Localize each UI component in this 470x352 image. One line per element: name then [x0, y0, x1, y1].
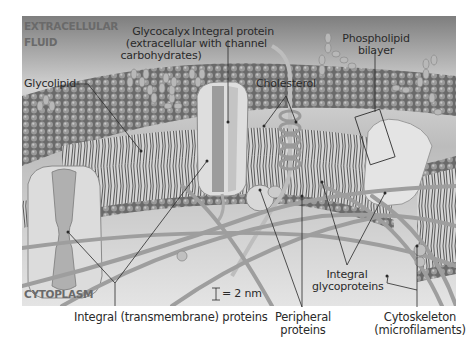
peripheral-proteins-label: Peripheral proteins [268, 311, 338, 337]
integral-protein-channel-label: Integral protein with channel [188, 26, 278, 50]
integral-glycoproteins-label: Integral glycoproteins [312, 269, 382, 293]
glycolipid-label: Glycolipid [24, 78, 76, 90]
integral-channel-line2: with channel [188, 38, 278, 50]
scale-bar-label: = 2 nm [222, 288, 262, 300]
glycocalyx-line3: carbohydrates) [116, 50, 206, 62]
integral-glyco-line2: glycoproteins [312, 281, 382, 293]
cholesterol-label: Cholesterol [256, 78, 316, 90]
cytoskeleton-line2: (microfilaments) [372, 324, 468, 337]
scale-bar-text: = 2 nm [222, 287, 262, 300]
transmembrane-proteins-label: Integral (transmembrane) proteins [74, 311, 268, 324]
peripheral-line2: proteins [268, 324, 338, 337]
cell-membrane-diagram: EXTRACELLULAR FLUID CYTOPLASM [0, 0, 470, 352]
cytoskeleton-label: Cytoskeleton (microfilaments) [372, 311, 468, 337]
phospholipid-line2: bilayer [336, 45, 416, 57]
phospholipid-bilayer-label: Phospholipid bilayer [336, 33, 416, 57]
